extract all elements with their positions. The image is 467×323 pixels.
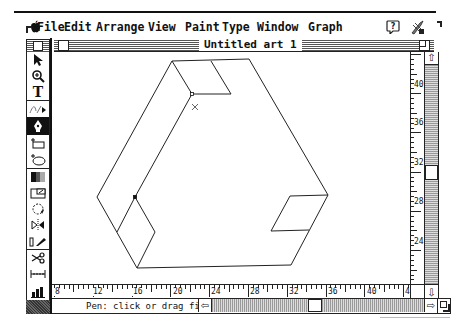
ruler-tick xyxy=(411,137,414,138)
menu-window[interactable]: Window xyxy=(257,20,299,34)
ruler-tick xyxy=(411,69,414,70)
ruler-tick xyxy=(411,206,414,207)
ruler-tick xyxy=(411,64,414,65)
ruler-tick xyxy=(311,285,312,289)
ruler-tick xyxy=(411,265,414,266)
anchor-point[interactable] xyxy=(191,93,194,96)
ruler-tick xyxy=(267,285,268,292)
scroll-right-arrow-icon[interactable]: ⇨ xyxy=(424,299,437,312)
help-balloon-icon[interactable]: ? xyxy=(386,20,400,34)
rectangle-icon xyxy=(30,138,46,150)
measure-tool[interactable] xyxy=(27,266,49,282)
oval-tool[interactable] xyxy=(27,152,49,168)
horizontal-scrollbar[interactable] xyxy=(212,299,424,312)
pen-tool[interactable] xyxy=(27,117,49,135)
ruler-tick xyxy=(122,285,123,289)
ruler-tick xyxy=(190,285,191,292)
ruler-tick xyxy=(350,285,351,289)
ruler-tick xyxy=(411,132,421,133)
path-segment[interactable] xyxy=(290,195,328,196)
screen-top-edge xyxy=(14,11,436,13)
vertical-scrollbar[interactable]: ⇧ xyxy=(424,52,439,284)
scroll-up-arrow-icon[interactable]: ⇧ xyxy=(425,52,438,65)
window-title: Untitled art 1 xyxy=(199,38,302,51)
magnifier-icon xyxy=(31,69,45,83)
ruler-tick xyxy=(204,285,205,289)
ruler-tick xyxy=(411,103,414,104)
path-segment[interactable] xyxy=(192,61,231,94)
ruler-tick xyxy=(88,285,89,289)
freehand-tool[interactable] xyxy=(27,101,49,117)
toolbox: T xyxy=(26,52,51,284)
window-zoom-box[interactable] xyxy=(419,40,430,51)
ruler-tick xyxy=(272,285,273,289)
ruler-label: 24 xyxy=(210,288,222,296)
ruler-tick xyxy=(301,285,302,289)
vertical-ruler: 4036322824 xyxy=(410,52,425,284)
ruler-tick xyxy=(411,279,414,280)
ruler-tick xyxy=(224,285,225,289)
menu-type[interactable]: Type xyxy=(222,20,250,34)
ruler-tick xyxy=(411,147,414,148)
rotate-tool[interactable] xyxy=(27,201,49,217)
menu-edit[interactable]: Edit xyxy=(64,20,92,34)
ruler-tick xyxy=(282,285,283,289)
menu-graph[interactable]: Graph xyxy=(308,20,343,34)
scissors-tool[interactable] xyxy=(27,250,49,266)
ruler-tick xyxy=(411,226,414,227)
ruler-tick xyxy=(411,255,414,256)
ruler-tick xyxy=(321,285,322,289)
selection-arrow-tool[interactable] xyxy=(27,52,49,68)
zoom-tool[interactable] xyxy=(27,68,49,84)
ruler-label: 32 xyxy=(414,159,424,167)
menu-view[interactable]: View xyxy=(148,20,176,34)
ruler-tick xyxy=(411,186,414,187)
freehand-icon xyxy=(29,103,47,115)
toolbox-titlebar[interactable] xyxy=(26,39,50,53)
ruler-tick xyxy=(411,113,417,114)
graph-tool[interactable] xyxy=(26,284,51,300)
measure-icon xyxy=(30,268,46,280)
ruler-tick xyxy=(411,211,421,212)
ruler-tick xyxy=(411,191,417,192)
horizontal-scroll-thumb[interactable] xyxy=(308,299,322,312)
menu-file[interactable]: File xyxy=(37,20,65,34)
scale-icon xyxy=(30,187,46,199)
arrow-icon xyxy=(32,53,44,67)
drawing-canvas[interactable] xyxy=(52,52,410,284)
ruler-tick xyxy=(411,98,414,99)
ruler-tick xyxy=(411,260,414,261)
ruler-tick xyxy=(243,285,244,289)
ruler-tick xyxy=(112,285,113,292)
path-segment[interactable] xyxy=(135,197,155,268)
ruler-tick xyxy=(398,285,399,289)
bar-graph-icon xyxy=(31,286,45,298)
application-icon[interactable] xyxy=(410,19,426,35)
ruler-tick xyxy=(73,285,74,292)
rectangle-tool[interactable] xyxy=(27,136,49,152)
ruler-tick xyxy=(360,285,361,289)
shear-tool[interactable] xyxy=(27,233,49,249)
path-segment[interactable] xyxy=(97,59,328,268)
ruler-tick xyxy=(64,285,65,289)
scroll-left-arrow-icon[interactable]: ⇦ xyxy=(198,299,212,312)
ruler-tick xyxy=(384,285,385,292)
ruler-tick xyxy=(411,152,417,153)
anchor-point[interactable] xyxy=(134,196,137,199)
window-titlebar[interactable]: Untitled art 1 xyxy=(54,39,434,52)
ruler-tick xyxy=(411,216,414,217)
window-grow-box[interactable] xyxy=(437,298,451,314)
text-tool[interactable]: T xyxy=(27,84,49,100)
vertical-scroll-thumb[interactable] xyxy=(425,165,438,180)
toolbox-close-box[interactable] xyxy=(33,41,43,51)
oval-icon xyxy=(30,154,46,166)
path-segment[interactable] xyxy=(117,61,192,232)
menu-arrange[interactable]: Arrange xyxy=(96,20,144,34)
menu-paint[interactable]: Paint xyxy=(185,20,220,34)
window-close-box[interactable] xyxy=(58,40,69,51)
ruler-tick xyxy=(156,285,157,289)
scale-tool[interactable] xyxy=(27,185,49,201)
path-segment[interactable] xyxy=(271,196,309,231)
blend-tool[interactable] xyxy=(27,169,49,185)
reflect-tool[interactable] xyxy=(27,217,49,233)
